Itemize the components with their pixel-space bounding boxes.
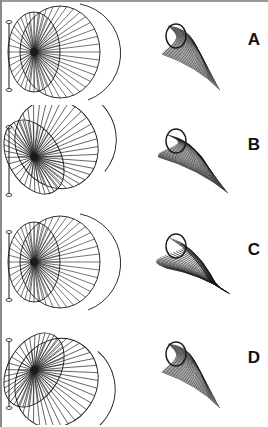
panel-drawing bbox=[0, 0, 268, 107]
scale-bar-icon bbox=[6, 231, 12, 302]
panel-label: D bbox=[248, 348, 260, 368]
spoke-wheel-diagram bbox=[0, 318, 133, 425]
panel-c: C bbox=[0, 210, 268, 317]
panel-drawing bbox=[0, 318, 268, 425]
helical-fan-drawing bbox=[156, 234, 230, 294]
spoke-wheel-diagram bbox=[8, 214, 121, 310]
panel-b: B bbox=[0, 105, 268, 212]
helical-fan-drawing bbox=[162, 24, 220, 90]
helical-fan-drawing bbox=[162, 342, 220, 408]
panel-a: A bbox=[0, 0, 268, 107]
scale-bar-icon bbox=[6, 339, 12, 410]
panel-drawing bbox=[0, 210, 268, 317]
panel-label: A bbox=[248, 30, 260, 50]
spoke-wheel-diagram bbox=[8, 4, 121, 100]
panel-label: C bbox=[248, 240, 260, 260]
panel-label: B bbox=[248, 135, 260, 155]
spoke-wheel-diagram bbox=[0, 105, 133, 212]
scale-bar-icon bbox=[6, 21, 12, 92]
helical-fan-drawing bbox=[158, 129, 228, 193]
panel-drawing bbox=[0, 105, 268, 212]
panel-d: D bbox=[0, 318, 268, 425]
